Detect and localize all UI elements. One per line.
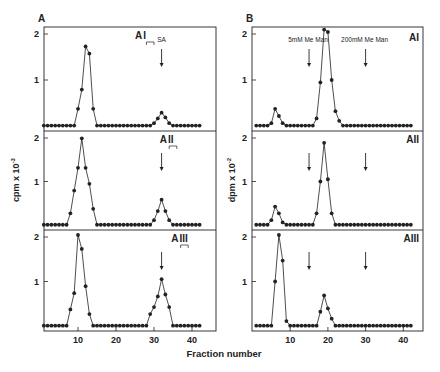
data-point <box>379 124 383 128</box>
data-point <box>296 223 300 227</box>
subpanel-label: A <box>135 30 142 41</box>
data-point <box>148 312 152 316</box>
data-point <box>198 223 202 227</box>
data-point <box>349 124 353 128</box>
data-point <box>103 223 107 227</box>
data-point <box>129 223 133 227</box>
data-point <box>164 209 168 213</box>
data-point <box>175 124 179 128</box>
x-tick-label: 10 <box>73 335 83 345</box>
arrow-down-icon <box>364 167 368 171</box>
data-point <box>179 124 183 128</box>
data-point <box>126 324 130 328</box>
data-point <box>126 124 130 128</box>
data-point <box>171 324 175 328</box>
y-tick-label: 2 <box>242 133 247 143</box>
subpanel-label-roman: II <box>168 134 174 145</box>
y-tick-label: 2 <box>34 232 39 242</box>
data-point <box>315 117 319 121</box>
data-point <box>72 291 76 295</box>
data-point <box>341 223 345 227</box>
data-point <box>296 324 300 328</box>
y-tick-label: 2 <box>34 133 39 143</box>
data-point <box>281 221 285 225</box>
arrow-down-icon <box>364 63 368 67</box>
data-point <box>383 324 387 328</box>
data-point <box>46 124 50 128</box>
data-point <box>141 223 145 227</box>
data-point <box>360 223 364 227</box>
data-point <box>171 223 175 227</box>
data-point <box>42 124 46 128</box>
data-point <box>394 223 398 227</box>
data-point <box>367 223 371 227</box>
data-point <box>300 124 304 128</box>
data-point <box>91 324 95 328</box>
subpanel-label: AI <box>409 32 419 43</box>
elution-curve <box>44 46 200 125</box>
data-point <box>198 324 202 328</box>
data-point <box>386 324 390 328</box>
data-point <box>179 223 183 227</box>
data-point <box>148 124 152 128</box>
data-point <box>326 177 330 181</box>
data-point <box>167 121 171 125</box>
data-point <box>258 124 262 128</box>
data-point <box>341 124 345 128</box>
data-point <box>167 305 171 309</box>
arrow-down-icon <box>307 266 311 270</box>
data-point <box>258 223 262 227</box>
data-point <box>352 223 356 227</box>
data-point <box>330 317 334 321</box>
data-point <box>292 124 296 128</box>
data-point <box>183 124 187 128</box>
data-point <box>95 223 99 227</box>
data-point <box>61 223 65 227</box>
data-point <box>145 124 149 128</box>
data-point <box>152 121 156 125</box>
data-point <box>401 124 405 128</box>
data-point <box>107 223 111 227</box>
data-point <box>156 294 160 298</box>
arrow-down-icon <box>160 63 164 67</box>
data-point <box>364 124 368 128</box>
data-point <box>356 223 360 227</box>
data-point <box>46 324 50 328</box>
data-point <box>311 324 315 328</box>
data-point <box>46 223 50 227</box>
data-point <box>133 324 137 328</box>
data-point <box>300 324 304 328</box>
data-point <box>337 223 341 227</box>
data-point <box>337 324 341 328</box>
data-point <box>254 124 258 128</box>
data-point <box>156 117 160 121</box>
data-point <box>288 223 292 227</box>
data-point <box>322 141 326 145</box>
panel-frame <box>252 27 423 331</box>
data-point <box>99 124 103 128</box>
data-point <box>160 111 164 115</box>
data-point <box>285 223 289 227</box>
data-point <box>375 324 379 328</box>
data-point <box>183 223 187 227</box>
data-point <box>303 223 307 227</box>
data-point <box>394 324 398 328</box>
data-point <box>285 319 289 323</box>
data-point <box>386 124 390 128</box>
data-point <box>345 324 349 328</box>
panel-letter: A <box>38 13 45 24</box>
data-point <box>409 124 413 128</box>
data-point <box>262 124 266 128</box>
panel-b: B12AI5mM Me Man200mM Me Man12AII12AIII10… <box>226 13 423 345</box>
data-point <box>311 223 315 227</box>
data-point <box>129 324 133 328</box>
x-axis-label: Fraction number <box>187 348 262 359</box>
data-point <box>57 124 61 128</box>
data-point <box>122 223 126 227</box>
data-point <box>110 124 114 128</box>
arrow-down-icon <box>307 63 311 67</box>
data-point <box>349 324 353 328</box>
arrow-down-icon <box>160 266 164 270</box>
data-point <box>315 324 319 328</box>
data-point <box>186 124 190 128</box>
